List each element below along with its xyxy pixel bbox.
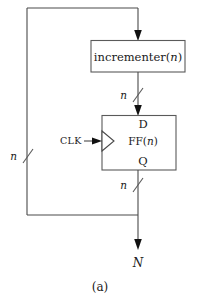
feedback-bus-marker: n [10,149,33,163]
clock-input-label: CLK [60,135,82,146]
arrowhead-into-clock [92,137,102,144]
incrementer-label-suffix: ) [178,50,183,64]
flipflop-pin-d-label: D [138,117,147,131]
flipflop-label: FF(n) [128,135,158,147]
feedback-bus-width-label: n [10,150,17,162]
incrementer-to-ff-bus-width-label: n [120,89,127,101]
flipflop-pin-q-label: Q [138,154,147,168]
output-bus-width-label: n [120,179,127,191]
flipflop-block[interactable]: D FF(n) Q [102,116,176,171]
diagram-canvas: n incrementer(n) n D FF(n) Q CLK [0,0,199,303]
arrowhead-into-incrementer [134,30,142,41]
feedback-bus-slash-icon [23,149,33,163]
incrementer-to-ff-path: n [120,72,143,116]
flipflop-label-suffix: ) [154,135,158,147]
incrementer-label: incrementer(n) [94,50,182,64]
figure-counter-block-diagram: n incrementer(n) n D FF(n) Q CLK [0,0,199,303]
incrementer-label-prefix: incrementer( [94,50,170,64]
incrementer-block[interactable]: incrementer(n) [91,41,185,73]
output-path: n N [120,170,144,270]
figure-caption: (a) [92,280,109,294]
incrementer-label-var: n [170,50,177,64]
flipflop-label-prefix: FF( [128,135,147,147]
output-signal-label: N [132,256,144,270]
arrowhead-into-ff-d [134,105,142,116]
arrowhead-output [134,239,142,250]
clock-input: CLK [60,135,102,146]
